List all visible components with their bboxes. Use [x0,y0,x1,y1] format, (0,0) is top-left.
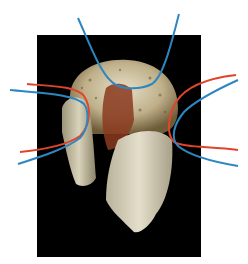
ct-render [0,0,248,264]
right-red-curve [169,75,238,150]
ct-figure [0,0,248,264]
bone-shaft [106,131,172,232]
